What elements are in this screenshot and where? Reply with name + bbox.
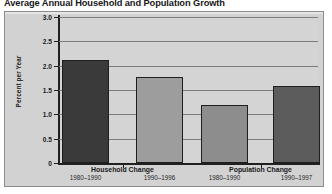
bar bbox=[273, 86, 320, 163]
x-axis-line bbox=[58, 163, 320, 165]
bar bbox=[136, 77, 183, 163]
y-axis-tick bbox=[54, 90, 59, 91]
y-axis-tick-label-text: 2.5 bbox=[22, 38, 52, 45]
plate-highlight bbox=[5, 12, 323, 14]
y-axis-tick bbox=[54, 139, 59, 140]
y-axis-tick-label: 1.0 bbox=[22, 111, 52, 118]
x-axis-period-label: 1980–1990 bbox=[185, 174, 265, 182]
y-axis-tick-label-text: 2.0 bbox=[22, 63, 52, 70]
y-axis-tick-label: 0.5 bbox=[22, 136, 52, 143]
y-axis-tick-label: 1.5 bbox=[22, 87, 52, 94]
bar bbox=[62, 60, 109, 163]
y-axis-tick-label: 3.0 bbox=[22, 14, 52, 21]
chart-figure: Average Annual Household and Population … bbox=[0, 0, 332, 194]
y-axis-tick-label-text: 0 bbox=[22, 160, 52, 167]
gridline bbox=[59, 41, 318, 42]
chart-title: Average Annual Household and Population … bbox=[4, 0, 304, 10]
y-axis-tick-label: 2.5 bbox=[22, 38, 52, 45]
y-axis-tick-label-text: 3.0 bbox=[22, 14, 52, 21]
x-axis-period-label: 1990–1997 bbox=[257, 174, 332, 182]
x-axis-tick bbox=[123, 165, 124, 168]
y-axis-tick-label: 2.0 bbox=[22, 63, 52, 70]
y-axis-tick-label-text: 1.0 bbox=[22, 111, 52, 118]
y-axis-tick-label-text: 1.5 bbox=[22, 87, 52, 94]
gridline bbox=[59, 17, 318, 18]
y-axis-tick-label: 0 bbox=[22, 160, 52, 167]
y-axis-tick bbox=[54, 163, 59, 164]
x-axis-period-label: 1980–1990 bbox=[46, 174, 126, 182]
y-axis-tick-label-text: 0.5 bbox=[22, 136, 52, 143]
bar bbox=[201, 105, 248, 163]
y-axis-tick bbox=[54, 66, 59, 67]
y-axis-tick bbox=[54, 17, 59, 18]
y-axis-title: Percent per Year bbox=[15, 47, 22, 117]
y-axis-tick bbox=[54, 114, 59, 115]
x-axis-tick bbox=[261, 165, 262, 168]
y-axis-tick bbox=[54, 41, 59, 42]
